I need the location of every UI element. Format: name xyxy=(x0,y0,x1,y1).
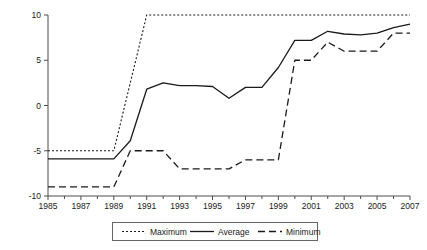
series-line-minimum xyxy=(48,33,410,187)
legend-label-minimum: Minimum xyxy=(286,227,320,237)
y-tick-label: -5 xyxy=(33,146,41,156)
y-tick-label: 10 xyxy=(32,10,42,20)
x-tick-label: 1991 xyxy=(137,201,156,211)
data-series-group xyxy=(48,15,410,187)
x-axis-ticks: 1985198719891991199319951997199920012003… xyxy=(39,196,420,211)
x-tick-label: 1985 xyxy=(39,201,58,211)
y-tick-label: 5 xyxy=(36,55,41,65)
legend-label-average: Average xyxy=(218,227,250,237)
x-tick-label: 1987 xyxy=(71,201,90,211)
series-line-maximum xyxy=(48,15,410,151)
y-tick-label: 0 xyxy=(36,101,41,111)
series-line-average xyxy=(48,24,410,159)
y-tick-label: -10 xyxy=(29,191,42,201)
x-tick-label: 1989 xyxy=(104,201,123,211)
x-tick-label: 2007 xyxy=(401,201,420,211)
x-tick-label: 2001 xyxy=(302,201,321,211)
x-tick-label: 1999 xyxy=(269,201,288,211)
x-tick-label: 1995 xyxy=(203,201,222,211)
x-tick-label: 1997 xyxy=(236,201,255,211)
legend-items: MaximumAverageMinimum xyxy=(122,227,320,237)
chart-legend: MaximumAverageMinimum xyxy=(113,223,321,241)
x-tick-label: 2005 xyxy=(368,201,387,211)
y-axis-ticks: 1050-5-10 xyxy=(29,10,48,201)
chart-canvas: 1050-5-10 198519871989199119931995199719… xyxy=(0,0,427,250)
x-tick-label: 2003 xyxy=(335,201,354,211)
line-chart: 1050-5-10 198519871989199119931995199719… xyxy=(0,0,427,250)
x-tick-label: 1993 xyxy=(170,201,189,211)
legend-label-maximum: Maximum xyxy=(150,227,187,237)
